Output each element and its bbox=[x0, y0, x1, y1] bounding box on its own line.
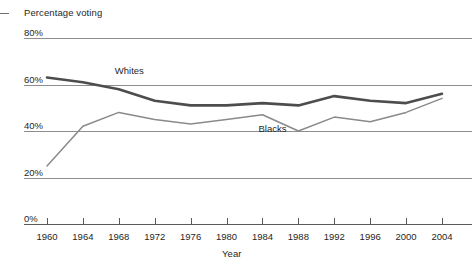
x-tick-label-1968: 1968 bbox=[108, 231, 129, 242]
series-line-blacks bbox=[47, 98, 442, 165]
x-tick-label-1996: 1996 bbox=[360, 231, 381, 242]
x-tick-label-1984: 1984 bbox=[252, 231, 273, 242]
x-tick-label-2000: 2000 bbox=[396, 231, 417, 242]
y-tick-label-0%: 0% bbox=[24, 213, 38, 224]
x-tick-label-1960: 1960 bbox=[36, 231, 57, 242]
series-label-whites: Whites bbox=[115, 65, 144, 76]
x-tick-label-1992: 1992 bbox=[324, 231, 345, 242]
chart-canvas bbox=[0, 0, 475, 267]
series-line-whites bbox=[47, 78, 442, 106]
y-tick-label-40%: 40% bbox=[24, 120, 43, 131]
x-tick-label-2004: 2004 bbox=[431, 231, 452, 242]
x-tick-label-1976: 1976 bbox=[180, 231, 201, 242]
voter-turnout-line-chart: Percentage voting Year 0%20%40%60%80% 19… bbox=[0, 0, 475, 267]
x-tick-label-1964: 1964 bbox=[72, 231, 93, 242]
series-label-blacks: Blacks bbox=[258, 123, 286, 134]
gridlines bbox=[24, 39, 472, 225]
x-axis-tickmarks bbox=[48, 218, 443, 224]
y-tick-label-80%: 80% bbox=[24, 27, 43, 38]
x-tick-label-1980: 1980 bbox=[216, 231, 237, 242]
y-tick-label-60%: 60% bbox=[24, 74, 43, 85]
x-tick-label-1972: 1972 bbox=[144, 231, 165, 242]
y-tick-label-20%: 20% bbox=[24, 167, 43, 178]
x-tick-label-1988: 1988 bbox=[288, 231, 309, 242]
